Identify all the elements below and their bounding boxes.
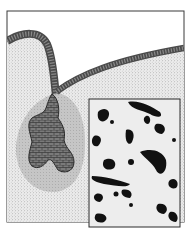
micrograph-inset [89,99,180,227]
gland-illustration [0,0,191,232]
